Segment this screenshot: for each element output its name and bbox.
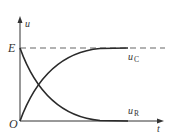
- ur-label: u R: [128, 105, 139, 118]
- svg-text:u: u: [128, 105, 133, 116]
- uc-label: u C: [128, 51, 139, 64]
- origin-label: O: [9, 117, 18, 131]
- x-axis-label: t: [157, 123, 160, 134]
- e-level-label: E: [7, 41, 16, 55]
- svg-text:C: C: [134, 55, 139, 64]
- uc-curve: [20, 48, 128, 121]
- ur-curve: [20, 48, 128, 121]
- svg-text:u: u: [128, 51, 133, 62]
- svg-text:R: R: [134, 109, 139, 118]
- y-axis-arrow-icon: [18, 16, 23, 23]
- rc-charging-diagram: u E O t u C u R: [0, 0, 171, 139]
- y-axis-label: u: [25, 18, 30, 29]
